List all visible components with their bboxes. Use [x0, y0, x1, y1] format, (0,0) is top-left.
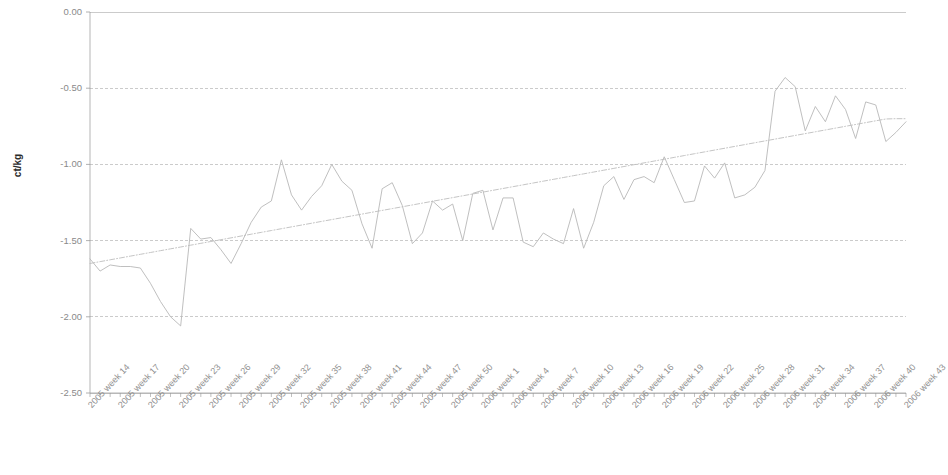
y-axis-tick-label: -0.50 — [38, 82, 82, 93]
y-axis-tick-label: 0.00 — [38, 6, 82, 17]
series-line-1 — [90, 119, 906, 264]
y-axis-tick-label: -1.50 — [38, 235, 82, 246]
axis-lines — [86, 12, 906, 393]
data-series-group — [90, 78, 906, 326]
series-line-0 — [90, 78, 906, 326]
x-axis-ticks — [90, 393, 906, 397]
y-axis-tick-label: -1.00 — [38, 158, 82, 169]
y-axis-tick-label: -2.50 — [38, 387, 82, 398]
y-axis-tick-label: -2.00 — [38, 311, 82, 322]
gridlines — [90, 12, 906, 393]
